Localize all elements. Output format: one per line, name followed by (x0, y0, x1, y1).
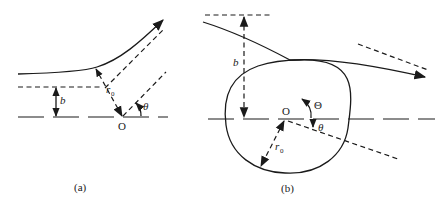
label-b-a: b (60, 94, 66, 106)
label-r0-sub-a: 0 (111, 90, 115, 98)
angle-ray-b (288, 121, 398, 159)
label-Theta-b: Θ (314, 99, 322, 111)
label-O-b: O (282, 105, 290, 117)
caption-a: (a) (74, 181, 87, 194)
label-r0-sub-b: 0 (280, 147, 284, 155)
caption-b: (b) (281, 182, 294, 195)
Theta-arc-b (302, 99, 311, 118)
trajectory-out-b (290, 60, 425, 77)
trajectory-b (203, 22, 290, 60)
theta-arc-a (136, 103, 141, 116)
r0-arrow-b (261, 121, 284, 166)
label-O-a: O (118, 120, 126, 132)
panel-a: b r 0 O θ (a) (18, 20, 168, 194)
label-b-b: b (233, 56, 239, 68)
panel-b: b O Θ θ r 0 (b) (203, 15, 435, 195)
label-theta-a: θ (143, 100, 149, 112)
asymptote-a (105, 28, 165, 88)
trajectory-a (18, 20, 163, 74)
label-theta-b: θ (318, 121, 324, 133)
figure-canvas: b r 0 O θ (a) b O Θ θ r 0 (b) (0, 0, 445, 208)
